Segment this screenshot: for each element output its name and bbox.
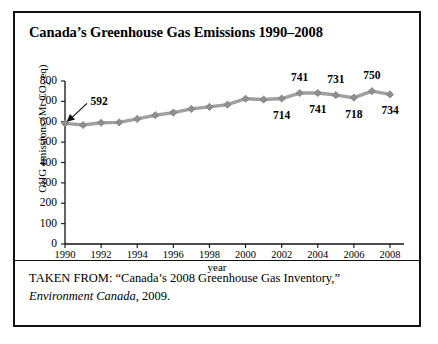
chart-svg [15, 57, 419, 257]
data-point-marker-2001 [260, 96, 267, 103]
data-label-2006: 718 [334, 109, 374, 121]
data-point-marker-1996 [170, 109, 177, 116]
page-title: Canada’s Greenhouse Gas Emissions 1990–2… [29, 24, 323, 41]
data-point-marker-1991 [79, 121, 86, 128]
source-year: , 2009. [136, 289, 170, 303]
data-point-marker-2008 [386, 91, 393, 98]
data-label-2007: 750 [352, 70, 392, 82]
source-prefix: TAKEN FROM: “Canada’s 2008 Greenhouse Ga… [29, 271, 340, 285]
data-label-2008: 734 [370, 105, 410, 117]
chart-plot-area: GHG emissions (Mt CO2 eq) 80070060050040… [15, 57, 419, 253]
section-divider [15, 260, 419, 261]
data-label-1990: 592 [79, 96, 119, 108]
source-publisher: Environment Canada [29, 289, 136, 303]
data-point-marker-2005 [332, 91, 339, 98]
data-point-marker-2004 [314, 89, 321, 96]
data-label-2003: 741 [280, 72, 320, 84]
data-point-marker-1998 [206, 103, 213, 110]
source-caption: TAKEN FROM: “Canada’s 2008 Greenhouse Ga… [29, 269, 405, 305]
data-label-2004: 741 [298, 104, 338, 116]
data-point-marker-1994 [134, 115, 141, 122]
data-point-marker-1993 [116, 119, 123, 126]
figure-panel: Canada’s Greenhouse Gas Emissions 1990–2… [13, 11, 421, 327]
data-point-marker-1995 [152, 112, 159, 119]
data-label-2005: 731 [316, 74, 356, 86]
data-point-marker-1992 [98, 119, 105, 126]
data-label-2002: 714 [262, 110, 302, 122]
data-point-marker-1997 [188, 105, 195, 112]
